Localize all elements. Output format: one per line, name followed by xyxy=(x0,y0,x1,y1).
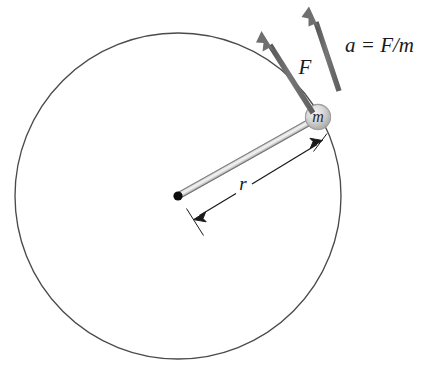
circular-motion-figure: F a = F/m r m xyxy=(0,0,425,372)
mass-label: m xyxy=(312,108,324,125)
figure-canvas: F a = F/m r m xyxy=(0,0,425,372)
pivot-point xyxy=(173,191,182,200)
force-label: F xyxy=(298,55,312,79)
acceleration-label: a = F/m xyxy=(345,33,414,57)
radius-label: r xyxy=(239,173,247,194)
